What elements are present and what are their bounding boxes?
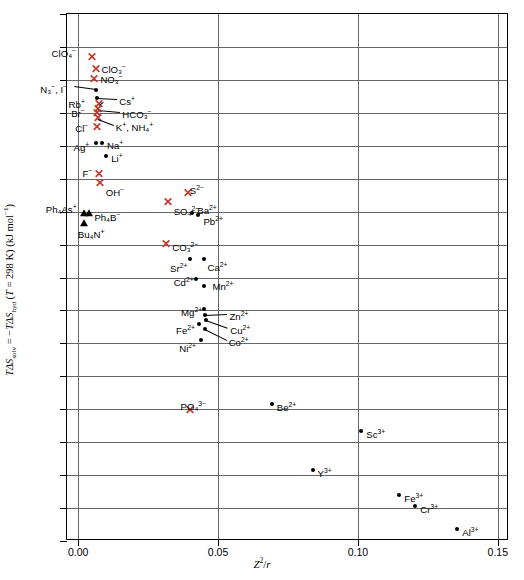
y-axis-tick <box>60 442 67 443</box>
data-point-label: ClO₄− <box>52 46 76 59</box>
data-point-label: Mg2+ <box>181 305 202 318</box>
data-point-label: N₃−, I− <box>40 82 67 95</box>
gridline-vertical <box>358 14 359 539</box>
marker-dot <box>196 213 200 217</box>
y-axis-tick <box>60 245 67 246</box>
data-point-label: Ni2+ <box>179 341 196 354</box>
marker-x: ✕ <box>161 239 171 251</box>
x-axis-tick-label: 0.00 <box>48 546 108 558</box>
x-axis-tick <box>218 539 219 546</box>
marker-dot <box>94 141 98 145</box>
x-axis-tick <box>358 539 359 546</box>
marker-x: ✕ <box>95 178 105 190</box>
data-point-label: Br− <box>71 106 85 119</box>
x-axis-tick <box>78 539 79 546</box>
marker-dot <box>104 154 108 158</box>
marker-dot <box>202 284 206 288</box>
data-point-label: F− <box>83 166 93 179</box>
data-point-label: Ph₄As+ <box>46 202 77 215</box>
data-point-label: Be2+ <box>277 400 297 413</box>
data-point-label: Ph₄B− <box>94 210 120 223</box>
marker-dot <box>202 307 206 311</box>
label-leader-line <box>204 329 226 341</box>
marker-dot <box>188 257 192 261</box>
data-point-label: Zn2+ <box>229 309 248 322</box>
data-point-label: S2− <box>190 183 204 196</box>
chart-root: TΔSsolv = −TΔShyd (T = 298 K) (kJ mol−1)… <box>0 0 524 580</box>
data-point-label: NO₃− <box>100 72 122 85</box>
data-point-label: Sc3+ <box>366 427 385 440</box>
marker-dot <box>359 429 363 433</box>
marker-dot <box>199 338 203 342</box>
y-axis-title-sub2: hyd <box>10 302 18 313</box>
marker-dot <box>413 504 417 508</box>
gridline-horizontal <box>67 442 507 443</box>
data-point-label: HCO₃− <box>122 107 151 120</box>
data-point-label: Sr2+ <box>170 261 187 274</box>
gridline-horizontal <box>67 245 507 246</box>
data-point-label: Ag+ <box>74 140 90 153</box>
data-point-label: Pb2+ <box>203 214 223 227</box>
y-axis-tick <box>60 179 67 180</box>
gridline-horizontal <box>67 475 507 476</box>
marker-dot <box>197 322 201 326</box>
y-axis-tick <box>60 343 67 344</box>
data-point-label: Y3+ <box>318 466 332 479</box>
gridline-vertical <box>498 14 499 539</box>
gridline-horizontal <box>67 146 507 147</box>
data-point-label: K+, NH₄+ <box>116 120 153 133</box>
x-axis-tick <box>498 539 499 546</box>
y-axis-tick <box>60 80 67 81</box>
data-point-label: Fe2+ <box>176 323 195 336</box>
marker-dot <box>202 257 206 261</box>
marker-tri <box>85 209 93 216</box>
gridline-horizontal <box>67 47 507 48</box>
y-axis-tick <box>60 409 67 410</box>
gridline-vertical <box>218 14 219 539</box>
gridline-horizontal <box>67 343 507 344</box>
marker-dot <box>194 277 198 281</box>
gridline-vertical <box>78 14 79 539</box>
data-point-label: OH− <box>106 185 124 198</box>
y-axis-tick <box>60 310 67 311</box>
gridline-horizontal <box>67 179 507 180</box>
data-point-label: Bu₄N+ <box>78 227 105 240</box>
label-leader-line <box>205 314 227 316</box>
y-axis-tick <box>60 14 67 15</box>
data-point-label: Co2+ <box>229 335 249 348</box>
plot-area: 0.000.050.100.15+400−40−80−120✕ClO₄−✕ClO… <box>66 13 508 540</box>
data-point-label: Cl− <box>75 121 88 134</box>
y-axis-tick <box>60 113 67 114</box>
y-axis-tick <box>60 376 67 377</box>
marker-dot <box>190 211 194 215</box>
y-axis-tick <box>60 541 67 542</box>
gridline-horizontal <box>67 310 507 311</box>
y-axis-title-Tvar: T <box>4 290 15 296</box>
data-point-label: Ca2+ <box>208 260 228 273</box>
gridline-horizontal <box>67 508 507 509</box>
y-axis-tick <box>60 278 67 279</box>
data-point-label: Cr3+ <box>420 502 438 515</box>
y-axis-title-T1: T <box>4 370 15 376</box>
data-point-label: Mn2+ <box>213 279 234 292</box>
x-axis-tick-label: 0.10 <box>328 546 388 558</box>
x-axis-tick-label: 0.05 <box>188 546 248 558</box>
y-axis-title-T2: T <box>4 324 15 330</box>
data-point-label: Al3+ <box>462 525 478 538</box>
gridline-horizontal <box>67 80 507 81</box>
gridline-horizontal <box>67 212 507 213</box>
y-axis-title-paren: ( <box>4 296 15 302</box>
y-axis-tick <box>60 475 67 476</box>
marker-dot <box>270 402 274 406</box>
y-axis-title-dS1: ΔS <box>4 359 15 370</box>
gridline-horizontal <box>67 376 507 377</box>
marker-x: ✕ <box>89 74 99 86</box>
data-point-label: SO₄2− <box>174 204 200 217</box>
marker-x: ✕ <box>92 122 102 134</box>
marker-dot <box>455 527 459 531</box>
y-axis-title-temp: = 298 K) (kJ mol <box>4 215 15 290</box>
marker-x: ✕ <box>163 198 173 210</box>
gridline-horizontal <box>67 278 507 279</box>
y-axis-tick <box>60 146 67 147</box>
data-point-label: Cs+ <box>119 94 135 107</box>
